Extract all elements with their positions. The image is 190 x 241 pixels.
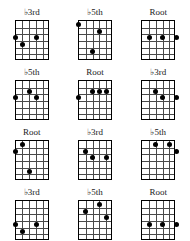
fretboard-grid: [15, 20, 49, 60]
fret-line: [16, 154, 48, 155]
fretboard-grid: [141, 80, 175, 120]
fret-line: [16, 101, 48, 102]
fret-line: [79, 234, 111, 235]
chord-diagram: Root: [127, 187, 190, 241]
fret-line: [142, 101, 174, 102]
fret-line: [79, 101, 111, 102]
fingering-dot: [104, 215, 109, 220]
fret-line: [142, 154, 174, 155]
fingering-dot: [83, 149, 88, 154]
fingering-dot: [147, 35, 152, 40]
chord-label: Root: [23, 127, 41, 139]
fret-line: [16, 88, 48, 89]
fretboard-grid: [78, 140, 112, 180]
fingering-dot: [34, 222, 39, 227]
fret-line: [16, 214, 48, 215]
fret-line: [142, 174, 174, 175]
chord-diagram: Root: [63, 67, 126, 127]
fingering-dot: [174, 149, 179, 154]
fret-line: [79, 174, 111, 175]
fingering-dot: [104, 89, 109, 94]
fret-line: [16, 174, 48, 175]
fingering-dot: [153, 89, 158, 94]
fret-line: [79, 28, 111, 29]
fret-line: [16, 161, 48, 162]
chord-diagram: ♭3rd: [0, 7, 63, 67]
fret-line: [79, 221, 111, 222]
fingering-dot: [90, 49, 95, 54]
fret-line: [16, 28, 48, 29]
fingering-dot: [76, 22, 81, 27]
fret-line: [16, 148, 48, 149]
fret-line: [79, 228, 111, 229]
fret-line: [79, 54, 111, 55]
fingering-dot: [147, 222, 152, 227]
fingering-dot: [90, 155, 95, 160]
fret-line: [142, 48, 174, 49]
fingering-dot: [20, 142, 25, 147]
fret-line: [142, 148, 174, 149]
fingering-dot: [13, 222, 18, 227]
fingering-dot: [20, 229, 25, 234]
fretboard-grid: [141, 140, 175, 180]
fret-line: [142, 114, 174, 115]
chord-label: ♭5th: [87, 7, 103, 19]
fret-line: [142, 234, 174, 235]
chord-diagram: ♭5th: [63, 7, 126, 67]
fret-line: [142, 214, 174, 215]
chord-diagram: ♭3rd: [63, 127, 126, 187]
chord-diagram: Root: [127, 7, 190, 67]
diagram-row: ♭3rd♭5thRoot: [0, 7, 190, 67]
fret-line: [16, 54, 48, 55]
fingering-dot: [90, 89, 95, 94]
fingering-dot: [20, 42, 25, 47]
fret-line: [16, 48, 48, 49]
fingering-dot: [104, 155, 109, 160]
fret-line: [16, 114, 48, 115]
fret-line: [16, 221, 48, 222]
fret-line: [142, 54, 174, 55]
fretboard-grid: [78, 80, 112, 120]
fingering-dot: [27, 169, 32, 174]
fret-line: [142, 228, 174, 229]
diagram-row: ♭3rd♭5thRoot: [0, 187, 190, 241]
fret-line: [142, 88, 174, 89]
fretboard-grid: [15, 140, 49, 180]
chord-label: ♭3rd: [24, 7, 40, 19]
fret-line: [16, 168, 48, 169]
fingering-dot: [167, 142, 172, 147]
chord-label: ♭3rd: [87, 127, 103, 139]
fingering-dot: [76, 95, 81, 100]
fret-line: [142, 161, 174, 162]
fret-line: [16, 94, 48, 95]
chord-label: ♭5th: [24, 67, 40, 79]
chord-diagram: ♭5th: [63, 187, 126, 241]
fret-line: [79, 161, 111, 162]
fingering-dot: [174, 222, 179, 227]
fret-line: [79, 94, 111, 95]
fret-line: [79, 41, 111, 42]
fingering-dot: [13, 35, 18, 40]
fretboard-grid: [78, 20, 112, 60]
fret-line: [79, 34, 111, 35]
diagram-row: Root♭3rd♭5th: [0, 127, 190, 187]
fret-line: [16, 234, 48, 235]
fret-line: [79, 108, 111, 109]
fingering-dot: [97, 89, 102, 94]
fingering-dot: [97, 202, 102, 207]
chord-label: ♭5th: [87, 187, 103, 199]
chord-label: ♭3rd: [150, 67, 166, 79]
fingering-dot: [160, 95, 165, 100]
fret-line: [142, 108, 174, 109]
fingering-dot: [160, 35, 165, 40]
fret-line: [142, 41, 174, 42]
chord-diagram: ♭3rd: [127, 67, 190, 127]
fret-line: [79, 168, 111, 169]
fingering-dot: [13, 149, 18, 154]
fretboard-grid: [141, 20, 175, 60]
fret-line: [79, 48, 111, 49]
chord-diagram: ♭3rd: [0, 187, 63, 241]
fingering-dot: [174, 35, 179, 40]
chord-diagram: ♭5th: [0, 67, 63, 127]
fret-line: [142, 28, 174, 29]
